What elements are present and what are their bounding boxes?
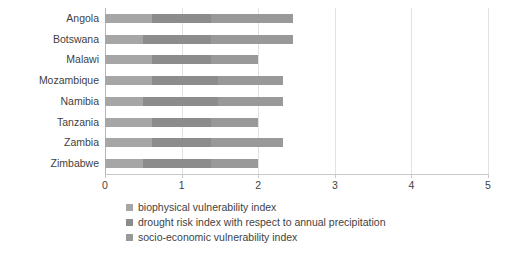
bar-segment[interactable] xyxy=(143,97,218,106)
y-axis-labels: AngolaBotswanaMalawiMozambiqueNamibiaTan… xyxy=(0,8,99,174)
legend-swatch-icon xyxy=(126,204,133,211)
bar-segment[interactable] xyxy=(152,14,210,23)
gridline-1 xyxy=(182,8,183,174)
y-axis-line xyxy=(105,8,106,174)
bar-segment[interactable] xyxy=(211,138,284,147)
x-axis-label-5: 5 xyxy=(485,178,491,192)
bar-segment[interactable] xyxy=(218,97,283,106)
y-axis-label-botswana: Botswana xyxy=(53,34,99,45)
bar-segment[interactable] xyxy=(105,35,143,44)
chart-legend: biophysical vulnerability indexdrought r… xyxy=(126,200,506,245)
bar-segment[interactable] xyxy=(152,76,218,85)
bar-segment[interactable] xyxy=(105,14,152,23)
y-axis-label-zambia: Zambia xyxy=(64,137,99,148)
stacked-bar-chart: AngolaBotswanaMalawiMozambiqueNamibiaTan… xyxy=(0,0,520,254)
bar-segment[interactable] xyxy=(211,14,293,23)
bar-row[interactable] xyxy=(105,35,293,44)
x-axis-label-2: 2 xyxy=(255,178,261,192)
legend-item[interactable]: socio-economic vulnerability index xyxy=(126,230,506,244)
bar-row[interactable] xyxy=(105,138,283,147)
bar-segment[interactable] xyxy=(105,159,143,168)
y-axis-label-namibia: Namibia xyxy=(60,96,99,107)
x-axis-label-3: 3 xyxy=(332,178,338,192)
y-axis-label-zimbabwe: Zimbabwe xyxy=(51,158,99,169)
bar-segment[interactable] xyxy=(152,138,210,147)
bar-segment[interactable] xyxy=(211,55,258,64)
bar-segment[interactable] xyxy=(152,118,210,127)
bar-segment[interactable] xyxy=(105,97,143,106)
bar-segment[interactable] xyxy=(152,55,210,64)
bar-segment[interactable] xyxy=(218,76,283,85)
x-axis-labels: 012345 xyxy=(105,178,489,194)
bar-row[interactable] xyxy=(105,76,283,85)
bar-segment[interactable] xyxy=(105,118,152,127)
plot-area xyxy=(105,8,488,174)
bar-row[interactable] xyxy=(105,97,283,106)
bar-segment[interactable] xyxy=(105,76,152,85)
y-axis-label-malawi: Malawi xyxy=(66,54,99,65)
legend-item[interactable]: drought risk index with respect to annua… xyxy=(126,215,506,229)
bar-row[interactable] xyxy=(105,55,258,64)
gridline-3 xyxy=(335,8,336,174)
gridline-4 xyxy=(411,8,412,174)
bar-segment[interactable] xyxy=(105,138,152,147)
y-axis-label-mozambique: Mozambique xyxy=(39,75,99,86)
bar-segment[interactable] xyxy=(211,35,293,44)
legend-swatch-icon xyxy=(126,219,133,226)
x-axis-label-1: 1 xyxy=(179,178,185,192)
legend-swatch-icon xyxy=(126,234,133,241)
bar-segment[interactable] xyxy=(211,118,258,127)
legend-label: biophysical vulnerability index xyxy=(138,201,276,213)
y-axis-label-angola: Angola xyxy=(66,13,99,24)
gridline-5 xyxy=(488,8,489,174)
bar-segment[interactable] xyxy=(143,35,210,44)
y-axis-label-tanzania: Tanzania xyxy=(57,117,99,128)
bar-row[interactable] xyxy=(105,14,293,23)
x-axis-line xyxy=(105,174,489,175)
legend-label: socio-economic vulnerability index xyxy=(138,231,297,243)
legend-item[interactable]: biophysical vulnerability index xyxy=(126,200,506,214)
bar-row[interactable] xyxy=(105,159,258,168)
bar-segment[interactable] xyxy=(143,159,210,168)
bar-row[interactable] xyxy=(105,118,258,127)
bar-segment[interactable] xyxy=(105,55,152,64)
bar-segment[interactable] xyxy=(211,159,258,168)
legend-label: drought risk index with respect to annua… xyxy=(138,216,385,228)
gridline-2 xyxy=(258,8,259,174)
x-axis-label-4: 4 xyxy=(408,178,414,192)
x-axis-label-0: 0 xyxy=(102,178,108,192)
